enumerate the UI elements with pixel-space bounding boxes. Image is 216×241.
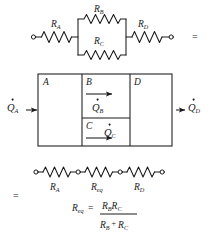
- label-ra-top-sub: A: [56, 23, 61, 30]
- formula-plus: +: [110, 219, 119, 228]
- label-ra-bottom-sub: A: [55, 186, 60, 193]
- label-rd-bottom: RD: [133, 182, 145, 193]
- heat-flow-label-qa-sub: A: [14, 107, 19, 114]
- heat-flow-label-qb-sub: B: [100, 107, 104, 114]
- eq-terminal-node-left: [34, 170, 38, 174]
- label-rb-top-sub: B: [100, 8, 104, 15]
- resistor-rc-symbol: [78, 51, 126, 60]
- dot-over-qb: [97, 99, 99, 101]
- label-rd-bottom-sub: D: [139, 186, 145, 193]
- eq-resistor-req-symbol: [85, 167, 113, 177]
- label-ra-bottom: RA: [49, 182, 60, 193]
- eq-resistor-rd-symbol: [127, 167, 155, 177]
- resistor-rb-symbol: [78, 15, 126, 24]
- formula-equals: =: [88, 203, 93, 213]
- dot-over-qa: [12, 99, 14, 101]
- heat-flow-label-qa: QA: [7, 99, 19, 115]
- formula-lhs-sub: eq: [78, 207, 84, 214]
- formula-numerator: RBRC: [101, 201, 122, 212]
- eq-terminal-node-mid1: [76, 170, 80, 174]
- terminal-node-left: [31, 35, 35, 39]
- heat-flow-label-qc: QC: [104, 124, 117, 140]
- formula-denominator: RB + RC: [99, 219, 129, 232]
- resistor-ra-symbol: [42, 32, 72, 43]
- eq-terminal-node-mid2: [118, 170, 122, 174]
- heat-flow-label-qb: QB: [92, 99, 104, 115]
- dot-over-qd: [193, 99, 195, 101]
- label-rc-top-sub: C: [100, 40, 105, 47]
- eq-resistor-ra-symbol: [43, 167, 71, 177]
- formula-num-sub-c: C: [117, 205, 122, 212]
- equals-sign-bottom: =: [13, 190, 19, 201]
- label-req-bottom-sub: eq: [97, 186, 103, 193]
- label-rd-top: RD: [137, 19, 149, 30]
- heat-flow-label-qd: QD: [188, 99, 201, 115]
- heat-flow-label-qa-text: QA: [7, 102, 19, 114]
- equivalent-resistance-formula: Req = RBRC RB + RC: [71, 201, 137, 231]
- heat-flow-label-qd-sub: D: [195, 107, 201, 114]
- heat-flow-label-qb-text: QB: [92, 102, 104, 114]
- thermal-resistance-figure: RA RB RC RD = A B C D QA QB: [0, 0, 216, 241]
- region-label-d: D: [133, 77, 141, 87]
- heat-flow-label-qd-text: QD: [188, 102, 201, 114]
- eq-terminal-node-right: [160, 170, 164, 174]
- equals-sign-top: =: [192, 31, 198, 42]
- terminal-node-right: [169, 35, 173, 39]
- bottom-resistor-network: [34, 167, 164, 177]
- resistor-rd-symbol: [132, 32, 162, 43]
- formula-lhs: Req: [71, 203, 84, 214]
- heat-flow-label-qc-sub: C: [112, 132, 117, 139]
- label-ra-top: RA: [50, 19, 61, 30]
- region-label-b: B: [86, 77, 92, 87]
- label-rc-top: RC: [93, 36, 105, 47]
- label-req-bottom: Req: [90, 182, 103, 193]
- region-label-a: A: [42, 77, 49, 87]
- formula-den-sub-c: C: [124, 224, 129, 231]
- region-label-c: C: [86, 121, 93, 131]
- label-rb-top: RB: [93, 4, 104, 15]
- dot-over-qc: [109, 124, 111, 126]
- label-rd-top-sub: D: [143, 23, 149, 30]
- heat-flow-label-qc-text: QC: [104, 127, 117, 139]
